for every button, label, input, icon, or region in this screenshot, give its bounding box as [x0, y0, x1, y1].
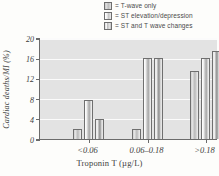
bar	[143, 58, 152, 139]
x-axis-tick	[148, 139, 149, 143]
x-axis-tick	[206, 139, 207, 143]
y-axis-tick	[36, 38, 40, 39]
legend-label-t-wave-only: = T-wave only	[115, 2, 156, 9]
bar-group	[190, 39, 219, 139]
legend-item-t-wave-only: = T-wave only	[104, 1, 219, 10]
x-axis-tick-label: <0.06	[77, 145, 98, 155]
y-axis-tick	[36, 139, 40, 140]
y-axis-tick-label: 8	[30, 95, 34, 104]
y-axis-tick	[36, 119, 40, 120]
y-axis-tick-label: 0	[30, 136, 34, 145]
bar-group	[73, 39, 104, 139]
bar	[73, 129, 82, 139]
legend-swatch-st-elevation-depression	[104, 12, 112, 20]
x-axis-tick	[89, 139, 90, 143]
y-axis-tick-label: 4	[30, 115, 34, 124]
y-axis-tick	[36, 79, 40, 80]
y-axis-tick	[36, 99, 40, 100]
y-axis-tick-label: 12	[26, 75, 34, 84]
x-axis-title: Troponin T (µg/L)	[0, 158, 219, 168]
legend-swatch-st-and-t-wave-changes	[104, 22, 112, 30]
bar	[154, 58, 163, 139]
x-axis-tick-label: 0.06–0.18	[130, 145, 164, 155]
legend-label-st-and-t-wave-changes: = ST and T wave changes	[115, 22, 193, 29]
y-axis-tick-label: 16	[26, 55, 34, 64]
chart-legend: = T-wave only = ST elevation/depression …	[104, 1, 219, 31]
y-axis-tick-label: 20	[26, 35, 34, 44]
y-axis-title: Cardiac deaths/MI (%)	[0, 39, 12, 140]
bar	[84, 100, 93, 139]
bar	[132, 129, 141, 139]
bar	[95, 119, 104, 139]
legend-item-st-and-t-wave-changes: = ST and T wave changes	[104, 21, 219, 30]
legend-swatch-t-wave-only	[104, 2, 112, 10]
legend-item-st-elevation-depression: = ST elevation/depression	[104, 11, 219, 20]
bar	[212, 51, 219, 139]
bar	[190, 71, 199, 139]
plot-area: 048121620	[39, 39, 217, 140]
legend-label-st-elevation-depression: = ST elevation/depression	[115, 12, 193, 19]
bar-group	[132, 39, 163, 139]
bar	[201, 58, 210, 139]
y-axis-tick	[36, 59, 40, 60]
x-axis-tick-label: >0.18	[194, 145, 215, 155]
cardiac-deaths-bar-chart: = T-wave only = ST elevation/depression …	[0, 0, 219, 176]
